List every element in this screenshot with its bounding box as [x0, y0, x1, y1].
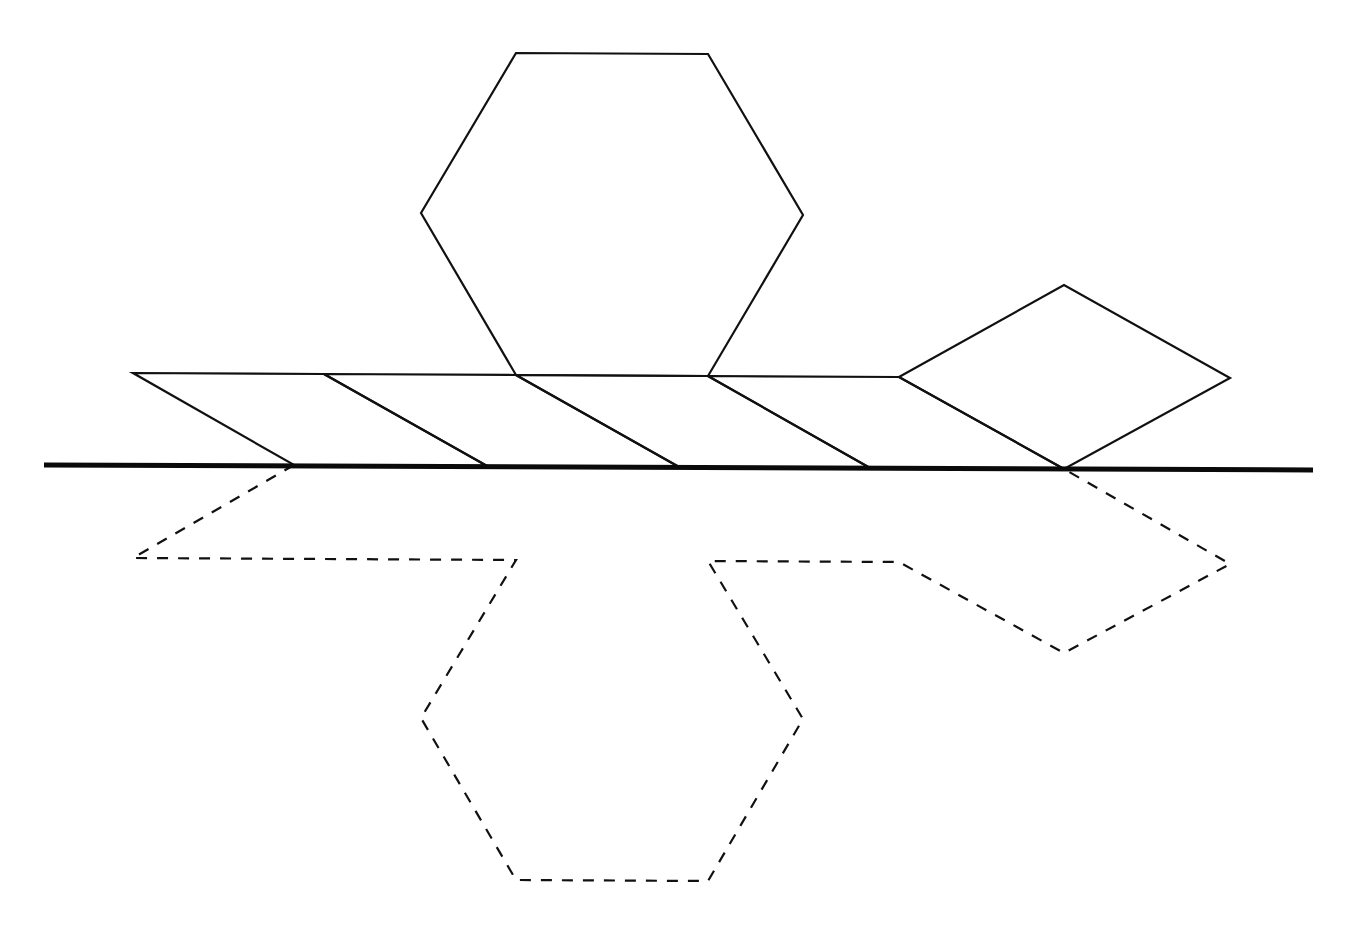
hexagon — [421, 53, 803, 376]
parallelogram-strip — [133, 373, 1064, 469]
mirror-line — [44, 465, 1313, 470]
parallelogram-1 — [133, 373, 487, 466]
parallelogram-4 — [708, 376, 1064, 469]
reflected-outline — [133, 465, 1230, 881]
rhombus — [899, 285, 1230, 469]
parallelogram-2 — [324, 374, 679, 467]
parallelogram-3 — [516, 375, 870, 468]
reflection-diagram — [0, 0, 1358, 934]
